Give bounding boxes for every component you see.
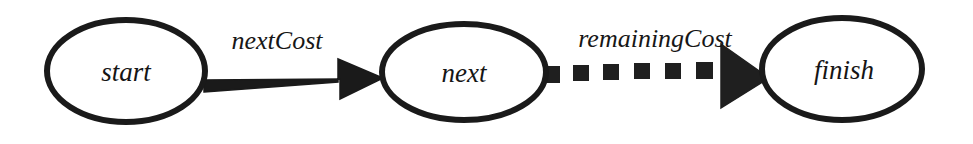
node-next[interactable]: next: [382, 24, 546, 120]
edge-next-to-finish[interactable]: [543, 44, 769, 108]
edge-label-nextcost: nextCost: [232, 26, 324, 55]
node-finish-label: finish: [814, 55, 874, 85]
edge-dash-segment: [573, 65, 589, 81]
edge-dash-segment: [634, 63, 650, 79]
node-start-label: start: [101, 57, 152, 87]
edge-label-remainingcost: remainingCost: [578, 24, 732, 53]
node-next-label: next: [442, 58, 488, 88]
edge-dash-segment: [603, 64, 619, 80]
node-finish[interactable]: finish: [762, 18, 922, 120]
edge-arrow-solid: [204, 59, 383, 99]
node-start[interactable]: start: [47, 20, 205, 122]
diagram-canvas: start next finish nextCost remainingCost: [0, 0, 973, 144]
diagram-svg: start next finish nextCost remainingCost: [0, 0, 973, 144]
edge-dash-segment: [696, 62, 713, 79]
edge-start-to-next[interactable]: [204, 59, 383, 99]
edge-dash-segment: [665, 63, 681, 79]
